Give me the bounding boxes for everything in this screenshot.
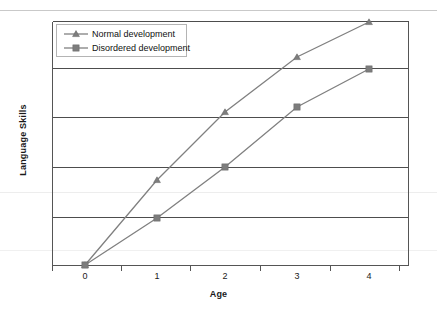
chart-screenshot: 0 1 2 3 4 Age Language Skills Normal dev… <box>0 0 437 313</box>
data-point-disordered-age-2 <box>222 164 228 170</box>
x-tick-label-4: 4 <box>354 271 384 281</box>
data-point-disordered-age-4 <box>366 66 372 72</box>
plot-frame <box>53 22 409 266</box>
x-tick-label-1: 1 <box>142 271 172 281</box>
y-axis-title: Language Skills <box>18 85 28 195</box>
x-tick-label-2: 2 <box>210 271 240 281</box>
data-point-disordered-age-0 <box>82 262 88 268</box>
legend-label-normal-development: Normal development <box>92 28 175 40</box>
legend-item-normal-development: Normal development <box>63 27 182 41</box>
x-axis-ticks <box>53 266 400 271</box>
x-tick-label-3: 3 <box>282 271 312 281</box>
triangle-marker-icon <box>63 28 89 40</box>
legend-label-disordered-development: Disordered development <box>92 42 190 54</box>
chart-legend: Normal development Disordered developmen… <box>56 24 187 57</box>
square-marker-icon <box>63 42 89 54</box>
data-point-normal-age-3 <box>294 54 301 60</box>
data-point-disordered-age-3 <box>294 104 300 110</box>
data-point-disordered-age-1 <box>154 215 160 221</box>
line-chart: 0 1 2 3 4 Age Language Skills Normal dev… <box>0 0 437 313</box>
legend-item-disordered-development: Disordered development <box>63 41 182 55</box>
series-line-normal-development <box>85 22 369 265</box>
x-tick-label-0: 0 <box>70 271 100 281</box>
x-axis-title: Age <box>0 289 437 299</box>
